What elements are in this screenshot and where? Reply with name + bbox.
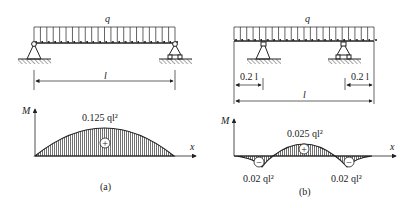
caption-a: (a)	[100, 181, 111, 193]
overhang-left-label: 0.2 l	[240, 71, 258, 82]
distributed-load-b	[234, 27, 374, 40]
figure-b-beam: q 0.2 l 0.2 l l	[234, 13, 374, 104]
caption-b: (b)	[299, 186, 311, 198]
svg-text:−: −	[256, 157, 262, 168]
roller-support-icon	[159, 42, 192, 64]
distributed-load-a	[34, 27, 175, 42]
roller-support-icon	[328, 42, 361, 64]
moment-axis-label-b: M	[220, 115, 230, 126]
x-axis-label-b: x	[389, 141, 395, 152]
svg-text:−: −	[346, 157, 352, 168]
left-negative-label-b: 0.02 ql²	[243, 173, 274, 184]
figure-a-beam: q l	[18, 13, 192, 90]
right-negative-label-b: 0.02 ql²	[331, 173, 362, 184]
load-label-q-b: q	[305, 13, 310, 24]
beam-diagrams: q l + M x	[0, 0, 408, 208]
svg-text:+: +	[102, 138, 108, 149]
svg-text:+: +	[301, 144, 307, 155]
moment-axis-label-a: M	[21, 105, 31, 116]
pin-support-icon	[247, 42, 281, 64]
pin-support-icon	[18, 42, 51, 64]
x-axis-label-a: x	[189, 141, 195, 152]
load-label-q-a: q	[105, 13, 110, 24]
max-moment-label-a: 0.125 ql²	[82, 112, 118, 123]
moment-diagram-b: + − −	[234, 119, 396, 168]
max-positive-label-b: 0.025 ql²	[287, 128, 323, 139]
span-label-a: l	[104, 70, 107, 81]
span-label-b: l	[303, 89, 306, 100]
overhang-right-label: 0.2 l	[351, 71, 369, 82]
